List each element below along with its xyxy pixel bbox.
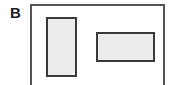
wide-rectangle <box>96 32 155 62</box>
tall-rectangle <box>46 17 77 77</box>
panel-label: B <box>10 5 21 20</box>
